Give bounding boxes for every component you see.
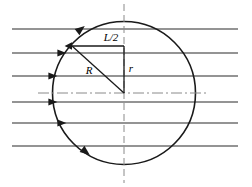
flow-direction-arrow-3 <box>48 72 57 79</box>
label-radius-r: r <box>129 62 134 74</box>
flow-lines-group <box>12 29 238 146</box>
circle-flow-arrows-group <box>75 23 93 158</box>
diagram-canvas: L/2 R r <box>0 0 252 187</box>
label-radius-R: R <box>85 64 93 76</box>
label-half-length: L/2 <box>103 31 119 43</box>
flow-diagram-svg: L/2 R r <box>0 0 252 187</box>
